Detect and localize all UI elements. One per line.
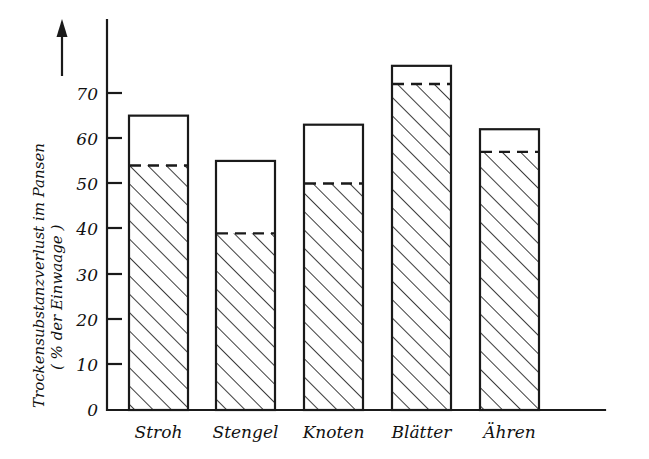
x-tick-label-stengel: Stengel [213, 422, 279, 442]
bar-hatched-segment [129, 165, 188, 410]
bar-hatched-segment [392, 84, 451, 410]
y-tick-label-0: 0 [87, 400, 98, 420]
bar-hatched-segment [480, 152, 539, 410]
y-tick-label-20: 20 [75, 310, 98, 330]
chart-figure: Trockensubstanzverlust im Pansen ( % der… [0, 0, 649, 459]
y-tick-label-60: 60 [76, 129, 98, 149]
y-axis-title-line2: ( % der Einwaage ) [48, 225, 66, 370]
bar-hatched-segment [216, 233, 275, 410]
y-axis-title-line1: Trockensubstanzverlust im Pansen [30, 143, 48, 408]
y-tick-label-10: 10 [76, 355, 98, 375]
x-tick-label-blätter: Blätter [391, 422, 453, 442]
y-tick-label-30: 30 [76, 265, 98, 285]
bar-group [392, 66, 451, 410]
x-tick-label-knoten: Knoten [302, 422, 365, 442]
bar-group [480, 129, 539, 410]
bar-hatched-segment [304, 184, 363, 410]
x-tick-label-ähren: Ähren [481, 422, 535, 442]
bar-chart-canvas: Trockensubstanzverlust im Pansen ( % der… [0, 0, 649, 459]
y-tick-label-50: 50 [76, 174, 98, 194]
x-tick-label-stroh: Stroh [135, 422, 183, 442]
y-tick-label-40: 40 [75, 219, 98, 239]
y-tick-label-70: 70 [76, 84, 98, 104]
